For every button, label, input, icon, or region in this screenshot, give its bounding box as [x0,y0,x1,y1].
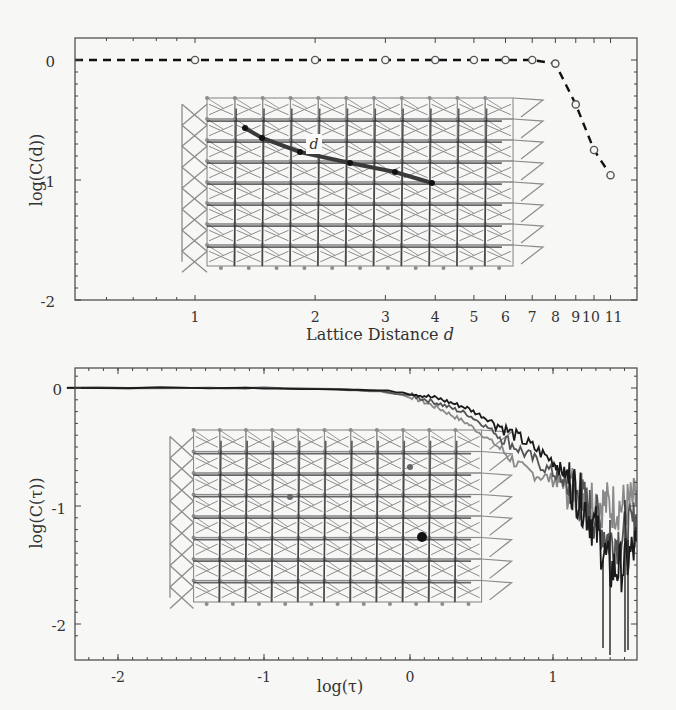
top-chart: d 0 -1 -2 1234567891011 Lattice Distance… [0,0,676,345]
bottom-ytick-minus2: -2 [51,617,66,635]
top-ytick-minus2: -2 [40,293,55,311]
data-point-marker [470,56,477,63]
bottom-xtick-label: -1 [257,669,271,685]
top-chart-panel: d 0 -1 -2 1234567891011 Lattice Distance… [0,0,676,345]
data-point-marker [529,56,536,63]
top-xtick-label: 7 [528,309,537,325]
top-xtick-label: 5 [469,309,478,325]
data-point-marker [607,172,614,179]
top-yaxis-label: log(C(d)) [27,134,46,206]
data-point-marker [191,56,198,63]
bottom-chart-panel: 0 -1 -2 -2-101 log(τ) log(C(τ)) [0,345,676,710]
data-point-marker [502,56,509,63]
top-xtick-label: 1 [191,309,200,325]
bottom-ticks [75,368,637,660]
highlighted-node [417,532,427,542]
bottom-ytick-minus1: -1 [51,500,66,518]
data-point-marker [572,101,579,108]
top-xtick-labels: 1234567891011 [191,309,623,325]
data-point-marker [312,56,319,63]
lattice-inset-top: d [182,96,543,272]
top-ytick-0: 0 [45,53,55,71]
bottom-yaxis-label: log(C(τ)) [27,477,46,548]
bottom-chart: 0 -1 -2 -2-101 log(τ) log(C(τ)) [0,345,676,710]
top-xtick-label: 4 [431,309,440,325]
data-point-marker [432,56,439,63]
top-xtick-label: 2 [311,309,320,325]
bottom-xtick-label: -2 [111,669,125,685]
top-xtick-label: 11 [605,309,623,325]
inset-distance-label: d [310,136,319,152]
bottom-xtick-label: 0 [406,669,415,685]
top-xaxis-label: Lattice Distance d [306,325,454,344]
top-xtick-label: 3 [381,309,390,325]
top-xtick-label: 9 [571,309,580,325]
data-point-marker [552,60,559,67]
top-xtick-label: 10 [582,309,600,325]
top-xtick-label: 8 [551,309,560,325]
data-point-marker [590,146,597,153]
top-ticks [75,38,637,300]
bottom-ytick-0: 0 [52,381,62,399]
data-point-marker [382,56,389,63]
bottom-xtick-label: 1 [549,669,558,685]
top-xtick-label: 6 [501,309,510,325]
bottom-plot-frame [75,368,637,660]
lattice-inset-bottom [170,428,512,608]
bottom-xaxis-label: log(τ) [317,677,363,696]
top-plot-frame [75,38,637,300]
